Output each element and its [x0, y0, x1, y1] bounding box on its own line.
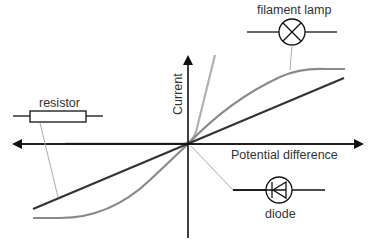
diode-curve	[65, 55, 215, 144]
y-axis-label: Current	[171, 73, 185, 115]
iv-characteristics-diagram: Current Potential difference resistor fi…	[0, 0, 376, 246]
filament-lamp-symbol	[247, 19, 337, 70]
resistor-label: resistor	[39, 96, 80, 110]
x-axis-label: Potential difference	[231, 148, 338, 162]
filament-lamp-label: filament lamp	[257, 3, 331, 17]
diode-label: diode	[265, 207, 296, 221]
